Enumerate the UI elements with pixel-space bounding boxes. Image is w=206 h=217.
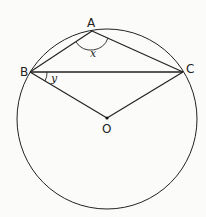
- circle-diagram: [0, 0, 206, 217]
- label-a: A: [87, 17, 95, 29]
- label-b: B: [20, 66, 28, 78]
- angle-arc-y: [45, 72, 47, 81]
- angle-label-x: x: [90, 48, 96, 59]
- label-o: O: [102, 123, 111, 135]
- segment-co: [107, 72, 183, 118]
- segment-bo: [30, 72, 107, 118]
- label-c: C: [186, 63, 194, 75]
- center-dot: [105, 116, 108, 119]
- segment-ac: [92, 31, 183, 72]
- segment-ab: [30, 31, 92, 72]
- angle-label-y: y: [51, 73, 57, 84]
